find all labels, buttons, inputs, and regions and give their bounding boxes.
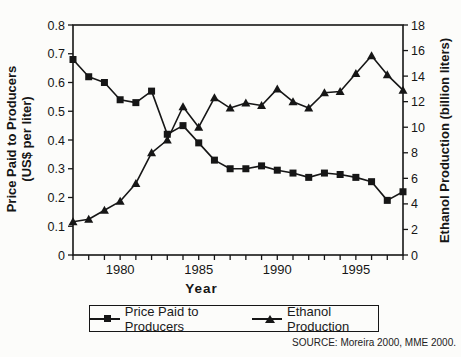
left-axis-title-line1: Price Paid to Producers — [4, 24, 19, 254]
data-point-square — [70, 56, 77, 63]
data-point-square — [258, 162, 265, 169]
data-point-square — [211, 157, 218, 164]
data-point-square — [227, 165, 234, 172]
plot-frame — [73, 25, 403, 255]
legend-label-price: Price Paid to Producers — [125, 304, 238, 334]
right-axis-tick-label: 4 — [411, 197, 418, 211]
data-point-square — [337, 171, 344, 178]
data-point-square — [180, 122, 187, 129]
left-axis-tick-label: 0.5 — [48, 105, 65, 119]
data-point-square — [242, 165, 249, 172]
data-point-triangle — [84, 215, 93, 223]
left-axis-tick-label: 0.2 — [48, 191, 65, 205]
left-axis-tick-label: 0.4 — [48, 134, 65, 148]
left-axis-tick-label: 0.7 — [48, 47, 65, 61]
right-axis-tick-label: 0 — [411, 249, 418, 263]
series-line — [73, 56, 403, 222]
left-axis-title: Price Paid to Producers (US$ per liter) — [4, 24, 34, 254]
data-point-square — [384, 197, 391, 204]
data-point-square — [368, 178, 375, 185]
data-point-square — [274, 167, 281, 174]
data-point-square — [400, 188, 407, 195]
data-point-square — [352, 174, 359, 181]
left-axis-tick-label: 0.8 — [48, 19, 65, 33]
data-point-triangle — [131, 179, 140, 187]
right-axis-tick-label: 14 — [411, 70, 425, 84]
data-point-triangle — [273, 84, 282, 92]
data-point-square — [148, 88, 155, 95]
right-axis-tick-label: 12 — [411, 95, 425, 109]
ethanol-price-production-figure: 00.10.20.30.40.50.60.70.8024681012141618… — [0, 0, 461, 357]
legend-item-price: Price Paid to Producers — [90, 304, 238, 334]
right-axis-tick-label: 10 — [411, 121, 425, 135]
legend-label-ethanol: Ethanol Production — [287, 304, 378, 334]
x-axis-title: Year — [0, 281, 403, 296]
data-point-triangle — [210, 93, 219, 101]
data-point-triangle — [100, 206, 109, 214]
x-axis-tick-label: 1990 — [263, 262, 292, 277]
x-axis-tick-label: 1995 — [341, 262, 370, 277]
square-marker-icon — [90, 314, 120, 324]
right-axis-tick-label: 18 — [411, 19, 425, 33]
data-point-square — [195, 139, 202, 146]
x-axis-tick-label: 1985 — [184, 262, 213, 277]
data-point-square — [132, 99, 139, 106]
data-point-square — [290, 170, 297, 177]
data-point-triangle — [241, 98, 250, 106]
data-point-square — [321, 170, 328, 177]
legend: Price Paid to Producers Ethanol Producti… — [89, 305, 379, 332]
left-axis-title-line2: (US$ per liter) — [19, 24, 34, 254]
data-point-triangle — [179, 102, 188, 110]
right-axis-title: Ethanol Production (billion liters) — [437, 16, 452, 266]
left-axis-tick-label: 0.1 — [48, 220, 65, 234]
data-point-square — [117, 96, 124, 103]
data-point-square — [85, 73, 92, 80]
left-axis-tick-label: 0.6 — [48, 76, 65, 90]
right-axis-tick-label: 6 — [411, 172, 418, 186]
right-axis-tick-label: 16 — [411, 44, 425, 58]
data-point-square — [101, 79, 108, 86]
left-axis-tick-label: 0 — [58, 249, 65, 263]
data-point-square — [305, 174, 312, 181]
legend-item-ethanol: Ethanol Production — [252, 304, 378, 334]
source-note: SOURCE: Moreira 2000, MME 2000. — [292, 337, 456, 348]
triangle-marker-icon — [252, 314, 282, 324]
left-axis-tick-label: 0.3 — [48, 162, 65, 176]
right-axis-tick-label: 8 — [411, 146, 418, 160]
right-axis-tick-label: 2 — [411, 223, 418, 237]
data-point-triangle — [367, 51, 376, 59]
x-axis-tick-label: 1980 — [106, 262, 135, 277]
